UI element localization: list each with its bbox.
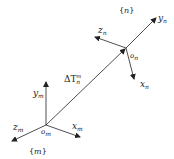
z-n-axis-label: zn [98, 26, 107, 36]
y-n-axis-arrow [126, 18, 156, 48]
frame-n-label: {n} [119, 7, 134, 15]
y-n-axis-label: yn [158, 14, 167, 24]
transform-label: ΔTmn [64, 74, 80, 85]
z-m-axis-label: zm [13, 123, 23, 133]
transform-arrow [46, 49, 125, 125]
z-n-axis-arrow [95, 37, 126, 48]
x-n-axis-label: xn [140, 80, 149, 90]
y-m-axis-label: ym [33, 89, 44, 99]
x-m-axis-label: xm [72, 122, 83, 132]
frame-m-label: {m} [29, 148, 47, 156]
origin-m-label: om [41, 129, 51, 137]
origin-n-label: on [130, 53, 138, 61]
frame-transform-diagram: {n} yn zn on xn ΔTmn ym zm xm om {m} [0, 0, 174, 159]
